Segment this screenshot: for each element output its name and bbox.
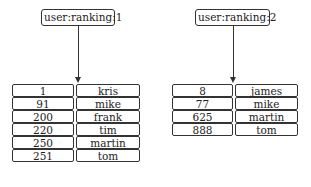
- zset-row: 220 tim: [12, 123, 140, 136]
- zset-row: 888 tom: [172, 123, 298, 136]
- member-cell: tim: [76, 123, 140, 136]
- member-cell: mike: [235, 97, 298, 110]
- arrow-head-2: [230, 77, 236, 83]
- member-cell: tom: [76, 149, 140, 162]
- zset-row: 91 mike: [12, 97, 140, 110]
- zset-row: 1 kris: [12, 84, 140, 97]
- score-cell: 625: [172, 110, 233, 123]
- score-cell: 220: [12, 123, 74, 136]
- score-cell: 250: [12, 136, 74, 149]
- score-cell: 8: [172, 84, 233, 97]
- zset-row: 200 frank: [12, 110, 140, 123]
- member-cell: kris: [76, 84, 140, 97]
- zset-table-2: 8 james 77 mike 625 martin 888 tom: [172, 84, 298, 136]
- score-cell: 200: [12, 110, 74, 123]
- member-cell: mike: [76, 97, 140, 110]
- key-user-ranking-1: user:ranking:1: [41, 9, 115, 26]
- zset-row: 625 martin: [172, 110, 298, 123]
- key-user-ranking-2: user:ranking:2: [195, 9, 270, 26]
- member-cell: frank: [76, 110, 140, 123]
- zset-row: 77 mike: [172, 97, 298, 110]
- arrow-line-2: [233, 26, 234, 78]
- arrow-line-1: [78, 26, 79, 78]
- member-cell: martin: [235, 110, 298, 123]
- score-cell: 1: [12, 84, 74, 97]
- zset-row: 251 tom: [12, 149, 140, 162]
- zset-row: 8 james: [172, 84, 298, 97]
- arrow-head-1: [75, 77, 81, 83]
- score-cell: 91: [12, 97, 74, 110]
- zset-table-1: 1 kris 91 mike 200 frank 220 tim 250 mar…: [12, 84, 140, 162]
- member-cell: james: [235, 84, 298, 97]
- zset-row: 250 martin: [12, 136, 140, 149]
- member-cell: tom: [235, 123, 298, 136]
- score-cell: 251: [12, 149, 74, 162]
- member-cell: martin: [76, 136, 140, 149]
- score-cell: 77: [172, 97, 233, 110]
- score-cell: 888: [172, 123, 233, 136]
